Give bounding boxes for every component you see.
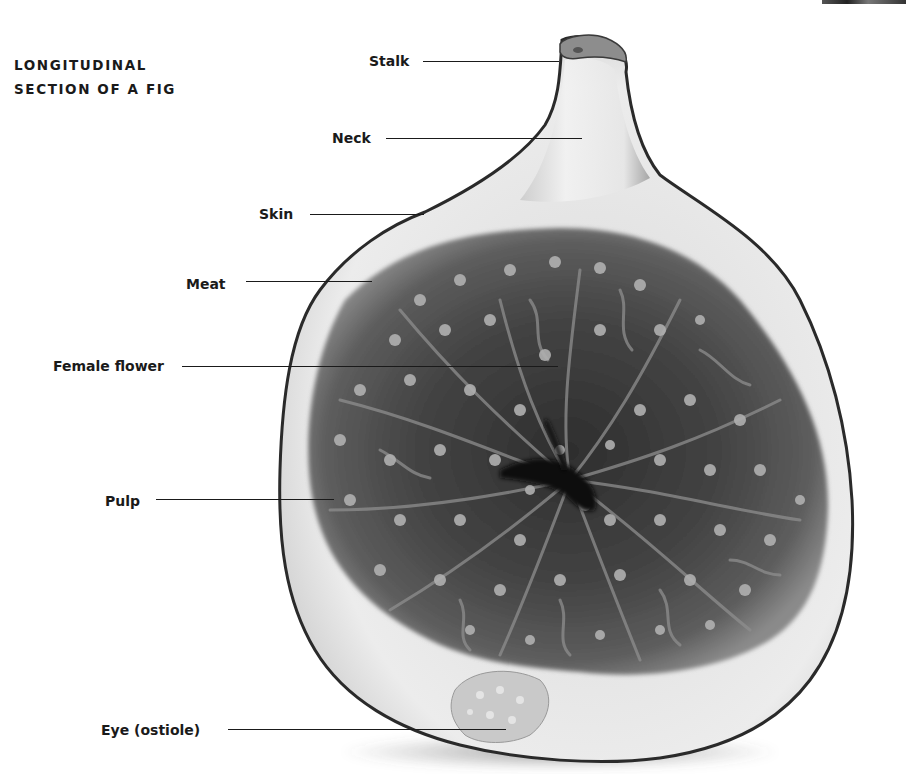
- leader-line-meat: [246, 281, 372, 282]
- fig-section-illustration: [0, 0, 906, 780]
- leader-line-eye: [228, 729, 506, 730]
- leader-line-female-flower: [182, 366, 558, 367]
- label-eye-ostiole: Eye (ostiole): [101, 722, 200, 738]
- label-female-flower: Female flower: [53, 358, 164, 374]
- label-stalk: Stalk: [369, 53, 409, 69]
- label-skin: Skin: [259, 206, 293, 222]
- label-neck: Neck: [332, 130, 371, 146]
- leader-line-skin: [310, 214, 424, 215]
- ostiole: [451, 671, 549, 742]
- leader-line-stalk: [423, 61, 559, 62]
- leader-line-neck: [386, 138, 582, 139]
- label-meat: Meat: [186, 276, 226, 292]
- label-pulp: Pulp: [105, 493, 140, 509]
- leader-line-pulp: [156, 499, 334, 500]
